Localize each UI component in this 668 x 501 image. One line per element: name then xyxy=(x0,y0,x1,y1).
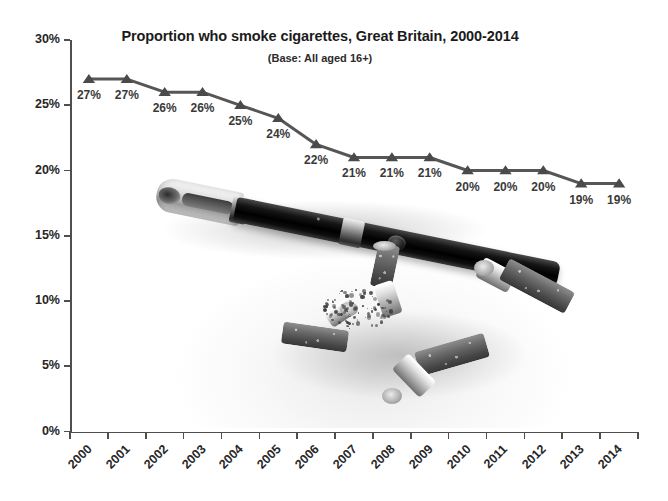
data-label-2002: 26% xyxy=(153,101,177,115)
data-label-2006: 22% xyxy=(304,153,328,167)
data-label-2008: 21% xyxy=(380,166,404,180)
data-label-2001: 27% xyxy=(115,88,139,102)
data-label-2011: 20% xyxy=(493,180,517,194)
smoking-prevalence-chart: Proportion who smoke cigarettes, Great B… xyxy=(0,0,668,501)
data-label-2003: 26% xyxy=(191,101,215,115)
data-label-2014: 19% xyxy=(607,193,631,207)
data-label-2005: 24% xyxy=(266,127,290,141)
data-label-2009: 21% xyxy=(418,166,442,180)
data-label-2012: 20% xyxy=(531,180,555,194)
data-label-2000: 27% xyxy=(77,88,101,102)
series-layer xyxy=(0,0,668,501)
data-label-2010: 20% xyxy=(456,180,480,194)
data-label-2007: 21% xyxy=(342,166,366,180)
data-label-2004: 25% xyxy=(228,114,252,128)
data-label-2013: 19% xyxy=(569,193,593,207)
